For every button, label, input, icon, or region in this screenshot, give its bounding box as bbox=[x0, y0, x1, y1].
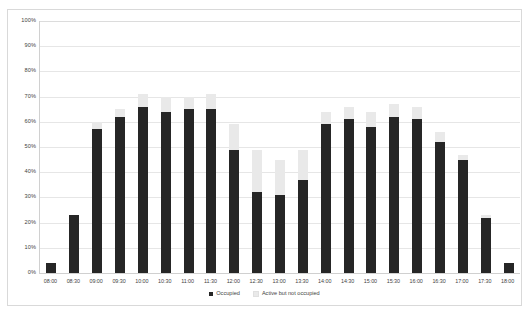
bar-segment-active-not-occupied bbox=[184, 97, 194, 110]
legend-item[interactable]: Active but not occupied bbox=[253, 291, 320, 297]
legend-swatch-icon bbox=[209, 292, 213, 296]
bar-segment-active-not-occupied bbox=[412, 107, 422, 120]
x-axis-tick: 17:00 bbox=[450, 275, 473, 287]
legend-item[interactable]: Occupied bbox=[209, 291, 240, 297]
bar-segment-occupied bbox=[481, 218, 491, 273]
x-axis-tick: 09:00 bbox=[85, 275, 108, 287]
chart-screenshot: 0%10%20%30%40%50%60%70%80%90%100% 08:000… bbox=[0, 0, 530, 318]
bar-stack[interactable] bbox=[229, 124, 239, 273]
bar-segment-active-not-occupied bbox=[389, 104, 399, 117]
bar-slot bbox=[406, 21, 429, 273]
x-axis-tick: 08:00 bbox=[39, 275, 62, 287]
bar-stack[interactable] bbox=[366, 112, 376, 273]
bar-slot bbox=[314, 21, 337, 273]
bar-segment-active-not-occupied bbox=[344, 107, 354, 120]
y-axis-tick: 100% bbox=[21, 18, 36, 24]
bar-stack[interactable] bbox=[115, 109, 125, 273]
bar-stack[interactable] bbox=[138, 94, 148, 273]
bar-segment-active-not-occupied bbox=[252, 150, 262, 193]
bar-segment-occupied bbox=[46, 263, 56, 273]
legend-label: Active but not occupied bbox=[262, 291, 320, 297]
x-axis-tick: 09:30 bbox=[108, 275, 131, 287]
bar-slot bbox=[177, 21, 200, 273]
bar-segment-active-not-occupied bbox=[138, 94, 148, 107]
x-axis-tick: 11:00 bbox=[176, 275, 199, 287]
bar-stack[interactable] bbox=[321, 112, 331, 273]
bar-segment-occupied bbox=[252, 192, 262, 273]
y-axis-tick: 90% bbox=[25, 43, 37, 49]
bar-segment-occupied bbox=[412, 119, 422, 273]
y-axis-tick: 0% bbox=[28, 270, 36, 276]
bar-segment-occupied bbox=[138, 107, 148, 273]
bar-segment-occupied bbox=[458, 160, 468, 273]
bar-stack[interactable] bbox=[92, 122, 102, 273]
legend-label: Occupied bbox=[216, 291, 240, 297]
bar-slot bbox=[451, 21, 474, 273]
bar-slot bbox=[200, 21, 223, 273]
bar-stack[interactable] bbox=[46, 263, 56, 273]
x-axis-tick: 11:30 bbox=[199, 275, 222, 287]
x-axis-tick: 12:00 bbox=[222, 275, 245, 287]
y-axis-tick: 20% bbox=[25, 220, 37, 226]
bar-segment-occupied bbox=[229, 150, 239, 273]
bar-segment-occupied bbox=[321, 124, 331, 273]
bar-stack[interactable] bbox=[206, 94, 216, 273]
x-axis-tick: 18:00 bbox=[496, 275, 519, 287]
bar-segment-occupied bbox=[92, 129, 102, 273]
bars-layer bbox=[40, 21, 520, 273]
x-axis-tick: 17:30 bbox=[473, 275, 496, 287]
bar-stack[interactable] bbox=[275, 160, 285, 273]
x-axis-tick: 14:00 bbox=[313, 275, 336, 287]
bar-segment-occupied bbox=[366, 127, 376, 273]
bar-slot bbox=[497, 21, 520, 273]
bar-stack[interactable] bbox=[481, 215, 491, 273]
bar-slot bbox=[383, 21, 406, 273]
bar-segment-active-not-occupied bbox=[161, 97, 171, 112]
bar-stack[interactable] bbox=[344, 107, 354, 273]
x-axis-tick: 16:30 bbox=[428, 275, 451, 287]
bar-stack[interactable] bbox=[184, 97, 194, 273]
bar-segment-active-not-occupied bbox=[435, 132, 445, 142]
chart-legend: OccupiedActive but not occupied bbox=[8, 291, 521, 297]
x-axis-tick: 13:00 bbox=[268, 275, 291, 287]
plot-area bbox=[39, 21, 520, 274]
y-axis-tick: 80% bbox=[25, 69, 37, 75]
bar-slot bbox=[109, 21, 132, 273]
bar-stack[interactable] bbox=[161, 97, 171, 273]
bar-stack[interactable] bbox=[504, 263, 514, 273]
bar-slot bbox=[63, 21, 86, 273]
x-axis-tick: 15:00 bbox=[359, 275, 382, 287]
x-axis: 08:0008:3009:0009:3010:0010:3011:0011:30… bbox=[39, 275, 519, 287]
bar-slot bbox=[223, 21, 246, 273]
bar-segment-active-not-occupied bbox=[229, 124, 239, 149]
y-axis-tick: 10% bbox=[25, 245, 37, 251]
bar-slot bbox=[86, 21, 109, 273]
x-axis-tick: 08:30 bbox=[62, 275, 85, 287]
bar-segment-active-not-occupied bbox=[366, 112, 376, 127]
bar-segment-occupied bbox=[344, 119, 354, 273]
bar-stack[interactable] bbox=[298, 150, 308, 273]
x-axis-tick: 16:00 bbox=[405, 275, 428, 287]
bar-slot bbox=[131, 21, 154, 273]
y-axis-tick: 50% bbox=[25, 144, 37, 150]
bar-slot bbox=[154, 21, 177, 273]
bar-stack[interactable] bbox=[389, 104, 399, 273]
bar-segment-active-not-occupied bbox=[115, 109, 125, 117]
bar-slot bbox=[246, 21, 269, 273]
bar-stack[interactable] bbox=[435, 132, 445, 273]
bar-stack[interactable] bbox=[412, 107, 422, 273]
x-axis-tick: 10:30 bbox=[153, 275, 176, 287]
bar-stack[interactable] bbox=[69, 215, 79, 273]
bar-stack[interactable] bbox=[458, 155, 468, 273]
bar-segment-active-not-occupied bbox=[92, 122, 102, 130]
legend-swatch-icon bbox=[253, 291, 259, 297]
bar-slot bbox=[269, 21, 292, 273]
y-axis-tick: 70% bbox=[25, 94, 37, 100]
chart-frame: 0%10%20%30%40%50%60%70%80%90%100% 08:000… bbox=[7, 9, 522, 306]
bar-segment-occupied bbox=[184, 109, 194, 273]
bar-stack[interactable] bbox=[252, 150, 262, 273]
y-axis-tick: 40% bbox=[25, 169, 37, 175]
x-axis-tick: 13:30 bbox=[290, 275, 313, 287]
bar-segment-occupied bbox=[298, 180, 308, 273]
x-axis-tick: 15:30 bbox=[382, 275, 405, 287]
